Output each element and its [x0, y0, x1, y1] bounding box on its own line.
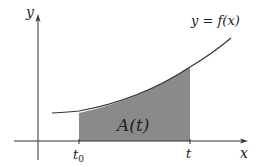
area-label: A(t)	[115, 115, 149, 135]
tick-label-t0: t0	[73, 147, 84, 164]
area-under-curve-diagram: y x y = f(x) A(t) t0 t	[0, 0, 260, 167]
curve-label: y = f(x)	[190, 13, 240, 28]
tick-label-t: t	[186, 146, 192, 161]
y-axis-label: y	[25, 4, 35, 20]
x-axis-label: x	[240, 145, 248, 161]
tick-label-t0-sub: 0	[78, 154, 84, 164]
